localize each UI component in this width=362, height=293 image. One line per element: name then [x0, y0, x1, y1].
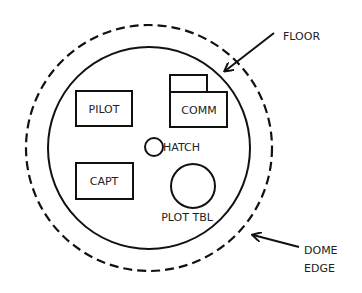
comm-station: COMM	[170, 75, 227, 127]
pilot-station: PILOT	[76, 91, 132, 126]
hatch-label: HATCH	[163, 141, 200, 154]
dome-label: DOME	[304, 244, 338, 257]
plot-table-label: PLOT TBL	[161, 211, 214, 224]
pilot-label: PILOT	[89, 103, 120, 116]
plot-table: PLOT TBL	[161, 164, 215, 224]
capt-label: CAPT	[90, 175, 119, 188]
floor-callout: FLOOR	[225, 30, 320, 71]
dome-edge-callout: DOME EDGE	[253, 235, 338, 275]
dome-edge-circle	[26, 25, 272, 271]
dome-edge-arrow-icon	[253, 235, 299, 247]
capt-station: CAPT	[76, 163, 133, 199]
edge-label: EDGE	[304, 262, 335, 275]
dome-floor-diagram: PILOT COMM HATCH CAPT PLOT TBL FLOOR DOM…	[0, 0, 362, 293]
floor-circle	[48, 47, 250, 249]
floor-label: FLOOR	[283, 30, 320, 43]
comm-label: COMM	[181, 104, 216, 117]
hatch: HATCH	[145, 138, 200, 156]
floor-arrow-icon	[225, 33, 274, 71]
